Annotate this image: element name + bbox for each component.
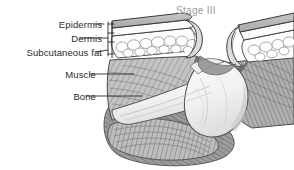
label-epidermis: Epidermis (16, 19, 102, 30)
label-dermis: Dermis (16, 33, 102, 44)
figure-title: Stage III (176, 5, 216, 16)
skin-flap-left (111, 13, 202, 58)
label-muscle: Muscle (10, 69, 96, 80)
label-subcutaneous-fat: Subcutaneous fat (0, 47, 102, 58)
label-bone: Bone (10, 91, 96, 102)
pressure-ulcer-figure: Stage III Epidermis Dermis Subcutaneous … (0, 0, 294, 170)
